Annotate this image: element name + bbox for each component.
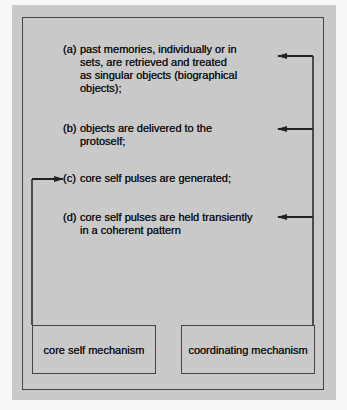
connector-arrows — [0, 0, 347, 410]
